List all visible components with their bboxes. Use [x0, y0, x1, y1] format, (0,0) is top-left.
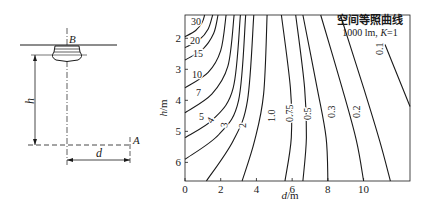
- x-axis-ticks: 0246810: [182, 178, 369, 195]
- y-tick-label: 4: [176, 94, 182, 106]
- isolux-curve-2: [242, 15, 267, 181]
- y-tick-label: 6: [176, 156, 182, 168]
- y-axis-label: h/m: [157, 99, 169, 117]
- x-tick-label: 0: [182, 183, 188, 195]
- curve-label-20: 20: [190, 35, 200, 46]
- isolux-curves: [185, 15, 410, 181]
- y-axis-ticks: 23456: [176, 32, 189, 168]
- isolux-curve-1.0: [281, 15, 291, 181]
- plot-frame: [185, 15, 410, 181]
- curve-label-5: 5: [199, 111, 204, 122]
- isolux-curve-0.1: [385, 45, 410, 107]
- curve-label-0.75: 0.75: [284, 105, 295, 123]
- curve-label-0.2: 0.2: [351, 106, 362, 119]
- figure: B A h d 0246810 23456 30201510754321.00.…: [0, 0, 425, 215]
- distance-label: d: [96, 146, 103, 160]
- curve-label-2: 2: [237, 123, 248, 128]
- isolux-curve-7: [185, 15, 234, 113]
- curve-label-4: 4: [204, 115, 216, 125]
- height-label: h: [23, 98, 37, 104]
- chart-title: 空间等照曲线: [337, 13, 403, 26]
- chart-subtitle: 1000 lm, K=1: [342, 27, 397, 38]
- curve-label-1.0: 1.0: [266, 110, 277, 123]
- isolux-chart: 0246810 23456 30201510754321.00.750.50.3…: [176, 15, 411, 195]
- curve-label-7: 7: [196, 87, 201, 98]
- curve-label-0.1: 0.1: [374, 43, 385, 56]
- y-tick-label: 5: [176, 125, 182, 137]
- point-a-label: A: [132, 134, 140, 146]
- curve-label-10: 10: [192, 69, 202, 80]
- y-tick-label: 2: [176, 32, 182, 44]
- curve-label-0.3: 0.3: [326, 106, 337, 119]
- curve-label-3: 3: [218, 122, 230, 129]
- curve-label-30: 30: [191, 16, 201, 27]
- isolux-curve-0.75: [296, 15, 307, 181]
- x-tick-label: 2: [218, 183, 224, 195]
- isolux-curve-0.2: [340, 15, 390, 181]
- point-b-label: B: [69, 33, 76, 45]
- lamp-schematic: [20, 28, 132, 165]
- y-tick-label: 3: [176, 63, 182, 75]
- lamp-icon: [52, 46, 81, 62]
- x-tick-label: 8: [325, 183, 331, 195]
- curve-label-15: 15: [193, 48, 203, 59]
- x-tick-label: 4: [254, 183, 260, 195]
- x-axis-label: d/m: [281, 189, 299, 201]
- x-tick-label: 10: [358, 183, 370, 195]
- curve-label-0.5: 0.5: [302, 108, 313, 121]
- isolux-curve-0.5: [303, 15, 328, 181]
